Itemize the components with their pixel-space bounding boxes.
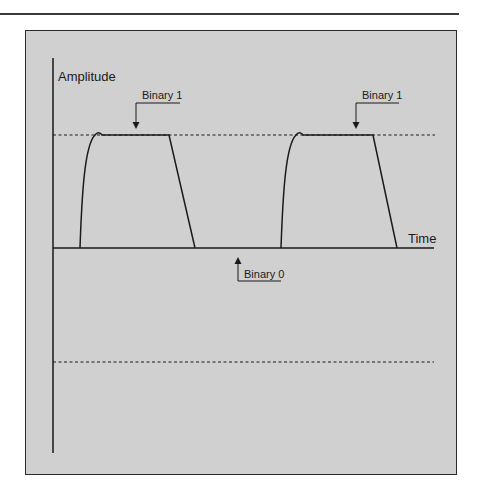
callout-label: Binary 1 xyxy=(362,89,402,101)
arrow-down-icon xyxy=(133,122,140,129)
x-axis-label: Time xyxy=(408,231,436,246)
callout-binary-0: Binary 0 xyxy=(235,257,285,281)
pulse-2 xyxy=(281,133,397,248)
signal-diagram: Binary 1 Binary 1 Binary 0 Amplitude Tim… xyxy=(0,0,483,501)
arrow-down-icon xyxy=(353,122,360,129)
callout-binary-1-first: Binary 1 xyxy=(133,89,183,129)
arrow-up-icon xyxy=(235,257,242,264)
callout-binary-1-second: Binary 1 xyxy=(353,89,403,129)
callout-label: Binary 0 xyxy=(244,268,284,280)
callout-label: Binary 1 xyxy=(142,89,182,101)
pulse-1 xyxy=(80,133,195,248)
y-axis-label: Amplitude xyxy=(58,69,116,84)
